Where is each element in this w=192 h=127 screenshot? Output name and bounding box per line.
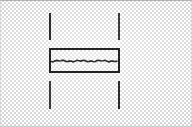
guide-line-upper-right: [118, 13, 120, 40]
guide-line-lower-left: [49, 81, 51, 109]
guide-line-lower-right: [118, 81, 120, 109]
figure-canvas: [0, 0, 192, 127]
drawing-layer: [0, 0, 192, 127]
interior-divider-line: [51, 59, 118, 62]
guide-line-upper-left: [49, 13, 51, 40]
